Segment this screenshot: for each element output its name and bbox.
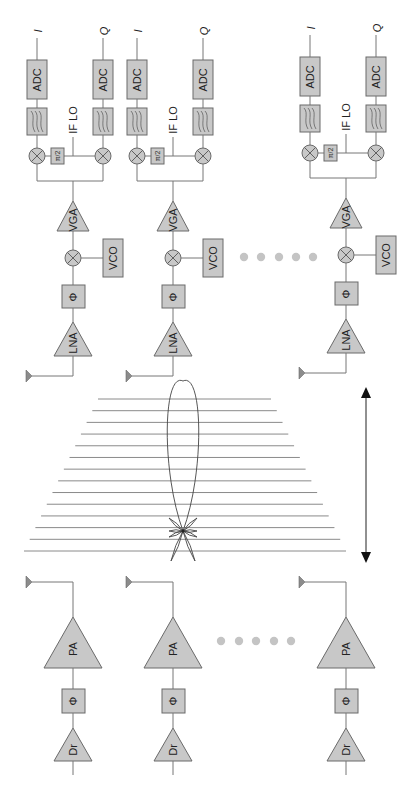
pa-label: PA	[340, 641, 352, 656]
iq-mixer-q-icon	[368, 145, 384, 161]
side-lobe	[183, 531, 195, 561]
if-lo-label: IF LO	[167, 106, 179, 134]
adc-i-label: ADC	[131, 68, 143, 91]
vco-label: VCO	[207, 246, 219, 270]
driver-label: Dr	[340, 744, 352, 756]
side-lobe	[171, 531, 183, 561]
vco-label: VCO	[107, 246, 119, 270]
iq-mixer-i-icon	[302, 145, 318, 161]
lowpass-filter-i	[127, 108, 147, 135]
adc-q-label: ADC	[97, 68, 109, 91]
vga-label: VGA	[67, 208, 79, 232]
ellipsis-dot	[287, 637, 295, 645]
ellipsis-dot	[252, 637, 260, 645]
antenna-icon	[126, 370, 132, 382]
pa-label: PA	[67, 641, 79, 656]
rf-mixer-icon	[338, 247, 354, 263]
receiver-chain: IQADCADCIF LOπ/2VGAVCOΦLNA	[126, 26, 223, 382]
phase-shifter-label: Φ	[67, 696, 79, 705]
antenna-icon	[126, 576, 132, 588]
receiver-chain: IQADCADCIF LOπ/2VGAVCOΦLNA	[299, 23, 396, 379]
scan-arrow-up-icon	[361, 387, 371, 398]
transmitter-chain: PAΦDr	[299, 576, 375, 775]
i-output-label: I	[32, 29, 44, 32]
ellipsis-dot	[309, 253, 317, 261]
receiver-section: IQADCADCIF LOπ/2VGAVCOΦLNAIQADCADCIF LOπ…	[26, 23, 396, 382]
q-output-label: Q	[371, 23, 383, 32]
ellipsis-dot	[270, 637, 278, 645]
quadrature-phase-label: π/2	[327, 148, 334, 159]
lna-label: LNA	[340, 329, 352, 351]
ellipsis-dot	[292, 253, 300, 261]
ellipsis-dot	[240, 253, 248, 261]
ellipsis-dot	[217, 637, 225, 645]
ellipsis-dot	[235, 637, 243, 645]
ellipsis-dot	[257, 253, 265, 261]
lowpass-filter-q	[93, 108, 113, 135]
beam-pattern	[24, 380, 371, 563]
iq-mixer-q-icon	[95, 148, 111, 164]
phased-array-diagram: IQADCADCIF LOπ/2VGAVCOΦLNAIQADCADCIF LOπ…	[0, 0, 404, 810]
antenna-icon	[26, 576, 32, 588]
quadrature-phase-label: π/2	[154, 151, 161, 162]
adc-i-label: ADC	[31, 68, 43, 91]
lowpass-filter-i	[27, 108, 47, 135]
phase-shifter-label: Φ	[167, 292, 179, 301]
receiver-chain: IQADCADCIF LOπ/2VGAVCOΦLNA	[26, 26, 123, 382]
lna-label: LNA	[67, 332, 79, 354]
vga-label: VGA	[167, 208, 179, 232]
transmitter-chain: PAΦDr	[126, 576, 202, 775]
transmitter-section: PAΦDrPAΦDrPAΦDr	[26, 576, 375, 775]
vco-label: VCO	[380, 243, 392, 267]
adc-q-label: ADC	[370, 65, 382, 88]
if-lo-label: IF LO	[67, 106, 79, 134]
antenna-icon	[299, 576, 305, 588]
phase-shifter-label: Φ	[340, 289, 352, 298]
adc-q-label: ADC	[197, 68, 209, 91]
rf-mixer-icon	[165, 250, 181, 266]
lowpass-filter-i	[300, 105, 320, 132]
antenna-icon	[26, 370, 32, 382]
q-output-label: Q	[198, 26, 210, 35]
lna-label: LNA	[167, 332, 179, 354]
if-lo-label: IF LO	[340, 103, 352, 131]
antenna-icon	[299, 367, 305, 379]
phase-shifter-label: Φ	[340, 696, 352, 705]
phase-shifter-label: Φ	[67, 292, 79, 301]
transmitter-chain: PAΦDr	[26, 576, 102, 775]
i-output-label: I	[305, 26, 317, 29]
scan-arrow-down-icon	[361, 552, 371, 563]
lowpass-filter-q	[193, 108, 213, 135]
i-output-label: I	[132, 29, 144, 32]
rf-mixer-icon	[65, 250, 81, 266]
beam-origin	[181, 529, 184, 532]
quadrature-phase-label: π/2	[54, 151, 61, 162]
iq-mixer-q-icon	[195, 148, 211, 164]
phase-shifter-label: Φ	[167, 696, 179, 705]
driver-label: Dr	[167, 744, 179, 756]
iq-mixer-i-icon	[29, 148, 45, 164]
q-output-label: Q	[98, 26, 110, 35]
ellipsis-dot	[275, 253, 283, 261]
pa-label: PA	[167, 641, 179, 656]
vga-label: VGA	[340, 205, 352, 229]
adc-i-label: ADC	[304, 65, 316, 88]
driver-label: Dr	[67, 744, 79, 756]
lowpass-filter-q	[366, 105, 386, 132]
main-lobe	[167, 380, 199, 531]
iq-mixer-i-icon	[129, 148, 145, 164]
